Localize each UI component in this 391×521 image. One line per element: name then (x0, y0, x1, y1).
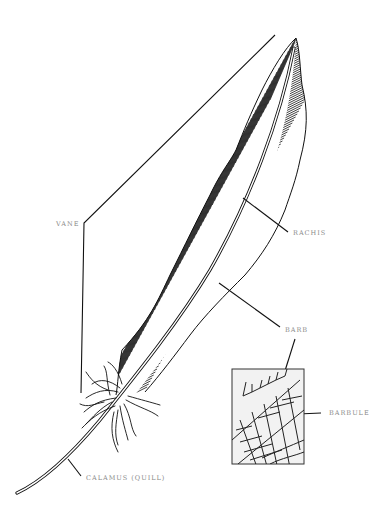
barb-leader (219, 283, 280, 327)
right-vane-outline (145, 38, 306, 392)
barbule-label: BARBULE (329, 410, 370, 417)
barb-label: BARB (285, 327, 308, 334)
barbule-inset (232, 369, 304, 470)
vane-label: VANE (56, 221, 79, 228)
vane-leader (81, 35, 275, 393)
calamus-leader (68, 459, 81, 476)
rachis-leader (243, 198, 288, 232)
feather-diagram: VANE RACHIS BARB BARBULE CALAMUS (QUILL) (0, 0, 391, 521)
rachis-label: RACHIS (293, 230, 326, 237)
afterfeather (80, 362, 160, 452)
calamus-label: CALAMUS (QUILL) (86, 475, 165, 482)
